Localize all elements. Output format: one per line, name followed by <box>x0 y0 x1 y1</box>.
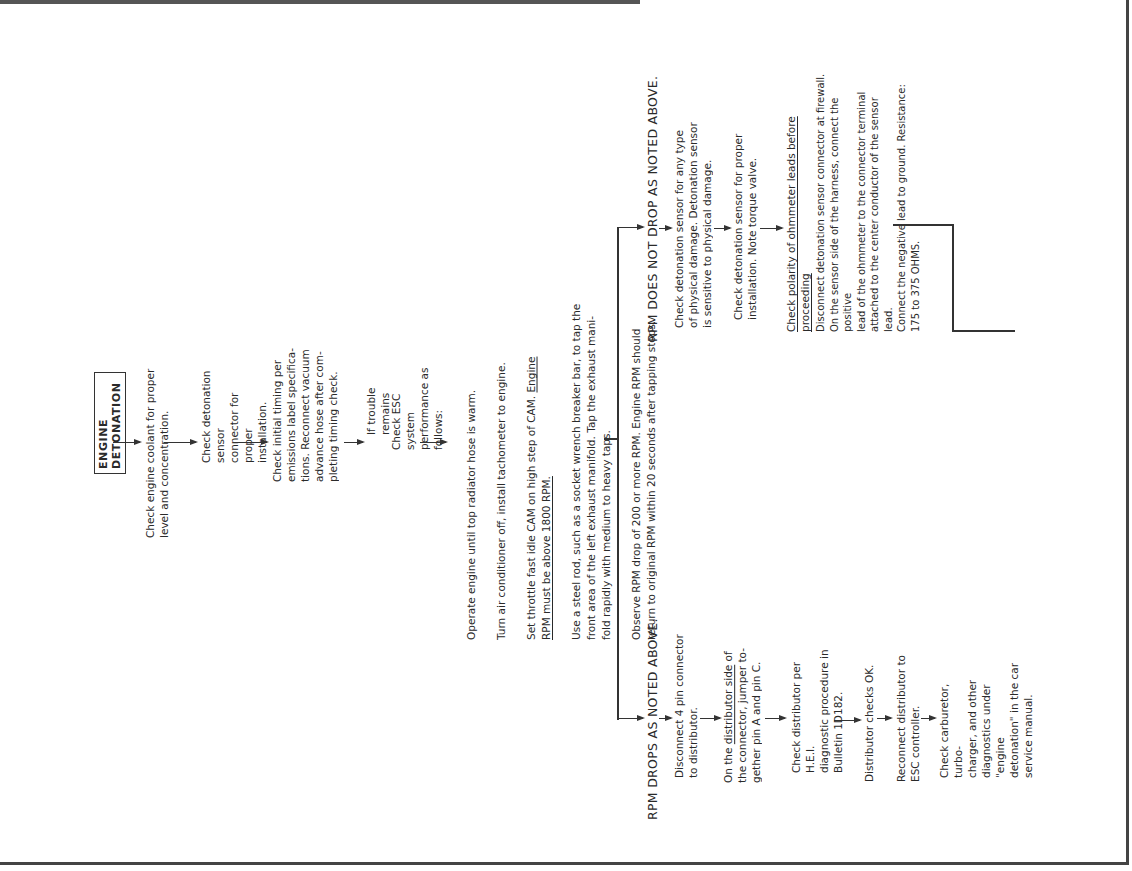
branch-connector-vertical <box>617 227 619 720</box>
arrow-right-icon <box>765 718 785 719</box>
arrow-right-icon <box>700 718 720 719</box>
arrow-right-icon <box>233 442 267 443</box>
arrow-right-icon <box>617 227 643 228</box>
page-border-bottom <box>0 862 1129 865</box>
step-if-trouble-remains: If trouble remains <box>364 357 392 435</box>
arrow-right-icon <box>344 442 363 443</box>
procedure-line-1: Operate engine until top radiator hose i… <box>465 390 477 640</box>
procedure-line-4: Use a steel rod, such as a socket wrench… <box>570 304 612 640</box>
branch-drops-heading: RPM DROPS AS NOTED ABOVE. <box>645 608 660 820</box>
step-check-esc: Check ESC system performance as follows: <box>389 360 445 450</box>
connector-line <box>893 224 953 226</box>
arrow-right-icon <box>617 718 643 719</box>
step-check-timing: Check initial timing per emissions label… <box>270 344 340 482</box>
step-disconnect-4pin: Disconnect 4 pin connector to distributo… <box>672 628 700 778</box>
procedure-line-3: Set throttle fast idle CAM on high step … <box>525 393 537 640</box>
arrow-right-icon <box>760 228 782 229</box>
step-jumper-text-underlined: distributor side <box>722 665 734 744</box>
step-reconnect-distributor: Reconnect distributor to ESC controller. <box>894 652 922 782</box>
branch-connector-stub <box>604 438 618 440</box>
connector-line <box>952 330 1015 332</box>
arrow-right-icon <box>834 720 860 721</box>
step-check-carburetor: Check carburetor, turbo- charger, and ot… <box>937 652 1035 778</box>
arrow-right-icon <box>164 442 196 443</box>
page-border-right <box>1126 0 1129 865</box>
arrow-right-icon <box>659 718 671 719</box>
procedure-block: Operate engine until top radiator hose i… <box>449 180 659 640</box>
arrow-right-icon <box>714 228 730 229</box>
arrow-right-icon <box>113 442 140 443</box>
branch-not-drop-heading: RPM DOES NOT DROP AS NOTED ABOVE. <box>645 56 660 342</box>
flowchart-title: ENGINE DETONATION <box>94 372 126 474</box>
step-check-sensor-damage: Check detonation sensor for any type of … <box>672 110 714 328</box>
step-jumper-pins: On the distributor side of the connector… <box>721 638 763 783</box>
procedure-line-2: Turn air conditioner off, install tachom… <box>495 362 507 640</box>
procedure-line-3-rpm: RPM must be above 1800 RPM. <box>540 476 552 640</box>
step-check-sensor-installation: Check detonation sensor for proper insta… <box>731 125 759 320</box>
arrow-right-icon <box>659 228 671 229</box>
step-disconnect-sensor-resistance: Disconnect detonation sensor connector a… <box>814 70 922 332</box>
step-check-coolant: Check engine coolant for proper level an… <box>143 360 171 538</box>
step-check-distributor: Check distributor per H.E.I. diagnostic … <box>789 638 845 773</box>
step-check-ohmmeter-polarity: Check polarity of ohmmeter leads before … <box>784 80 812 332</box>
page-border-top <box>0 0 640 4</box>
arrow-right-icon <box>420 442 446 443</box>
procedure-line-5: Observe RPM drop of 200 or more RPM. Eng… <box>630 321 657 640</box>
step-distributor-ok: Distributor checks OK. <box>862 652 876 782</box>
arrow-right-icon <box>921 718 935 719</box>
connector-line <box>952 224 954 332</box>
step-jumper-text-pre: On the <box>722 744 734 783</box>
step-check-sensor-connector: Check detonation sensor connector for pr… <box>199 355 269 463</box>
arrow-right-icon <box>877 718 891 719</box>
procedure-line-3-underlined: Engine <box>525 357 537 393</box>
